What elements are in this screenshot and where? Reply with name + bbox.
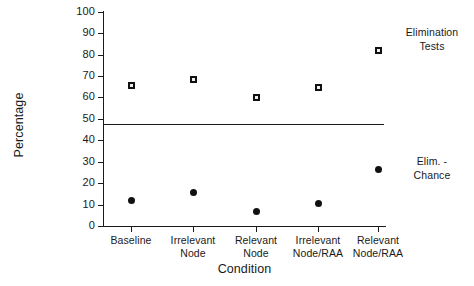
y-axis-line (103, 11, 104, 227)
x-tick-mark-relevant-node-raa (378, 227, 379, 232)
y-tick-mark-80 (98, 55, 103, 56)
y-tick-label-30: 30 (61, 155, 95, 167)
y-tick-mark-30 (98, 162, 103, 163)
x-tick-mark-relevant-node (256, 227, 257, 232)
y-tick-mark-20 (98, 183, 103, 184)
x-tick-mark-irrelevant-node-raa (318, 227, 319, 232)
y-tick-mark-100 (98, 12, 103, 13)
y-tick-label-50: 50 (61, 112, 95, 124)
y-tick-mark-70 (98, 76, 103, 77)
y-tick-label-80: 80 (61, 48, 95, 60)
x-axis-title: Condition (103, 262, 386, 276)
y-tick-label-20: 20 (61, 176, 95, 188)
series-label-elim-chance: Elim. - Chance (388, 154, 474, 182)
x-axis-line (103, 226, 386, 227)
series-label-elimination-tests: Elimination Tests (388, 25, 474, 53)
data-point-elimination-relevant-node-raa (375, 47, 382, 54)
series-label-elim-chance-line1: Elim. - (388, 154, 474, 168)
y-tick-mark-0 (98, 226, 103, 227)
series-label-elimination-tests-line2: Tests (388, 39, 474, 53)
data-point-chance-baseline (128, 197, 135, 204)
scatter-chart-figure: Percentage 100 90 80 70 60 50 40 30 20 1… (0, 0, 474, 286)
data-point-elimination-irrelevant-node-raa (315, 84, 322, 91)
x-tick-mark-baseline (131, 227, 132, 232)
data-point-chance-irrelevant-node-raa (315, 200, 322, 207)
x-tick-mark-irrelevant-node (193, 227, 194, 232)
data-point-elimination-irrelevant-node (190, 76, 197, 83)
x-tick-label-relevant-node-raa-line1: Relevant (332, 234, 424, 247)
y-tick-mark-50 (98, 119, 103, 120)
y-tick-mark-60 (98, 97, 103, 98)
chance-reference-line (104, 124, 384, 125)
data-point-chance-relevant-node-raa (375, 166, 382, 173)
series-label-elimination-tests-line1: Elimination (388, 25, 474, 39)
y-tick-label-0: 0 (61, 219, 95, 231)
y-tick-mark-40 (98, 140, 103, 141)
data-point-chance-irrelevant-node (190, 189, 197, 196)
y-tick-mark-10 (98, 205, 103, 206)
data-point-elimination-baseline (128, 82, 135, 89)
y-tick-label-90: 90 (61, 26, 95, 38)
y-tick-label-60: 60 (61, 90, 95, 102)
y-tick-mark-90 (98, 33, 103, 34)
y-tick-label-70: 70 (61, 69, 95, 81)
x-tick-label-relevant-node-raa: Relevant Node/RAA (332, 234, 424, 260)
x-tick-label-relevant-node-raa-line2: Node/RAA (332, 247, 424, 260)
y-axis-title: Percentage (12, 70, 26, 180)
y-tick-label-100: 100 (61, 5, 95, 17)
data-point-chance-relevant-node (253, 208, 260, 215)
series-label-elim-chance-line2: Chance (388, 168, 474, 182)
y-tick-label-10: 10 (61, 198, 95, 210)
y-tick-label-40: 40 (61, 133, 95, 145)
data-point-elimination-relevant-node (253, 94, 260, 101)
